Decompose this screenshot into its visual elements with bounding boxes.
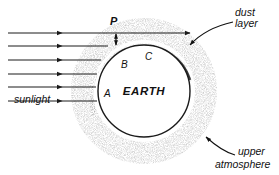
- upper-atmosphere-label-line2: atmosphere: [215, 158, 271, 170]
- earth-dust-layer-diagram: sunlight dust layer upper atmosphere EAR…: [0, 0, 279, 175]
- measure-p-label: P: [110, 15, 118, 27]
- sunlight-label: sunlight: [14, 93, 51, 105]
- upper-atmosphere-label-line1: upper: [238, 145, 265, 157]
- point-a-label: A: [103, 88, 111, 99]
- point-c-label: C: [145, 51, 153, 62]
- dust-layer-label-line2: layer: [235, 17, 258, 29]
- point-b-label: B: [121, 59, 128, 70]
- diagram-canvas: sunlight dust layer upper atmosphere EAR…: [0, 0, 279, 175]
- upper-atmosphere-leader-line: [206, 137, 235, 155]
- earth-label: EARTH: [123, 85, 165, 97]
